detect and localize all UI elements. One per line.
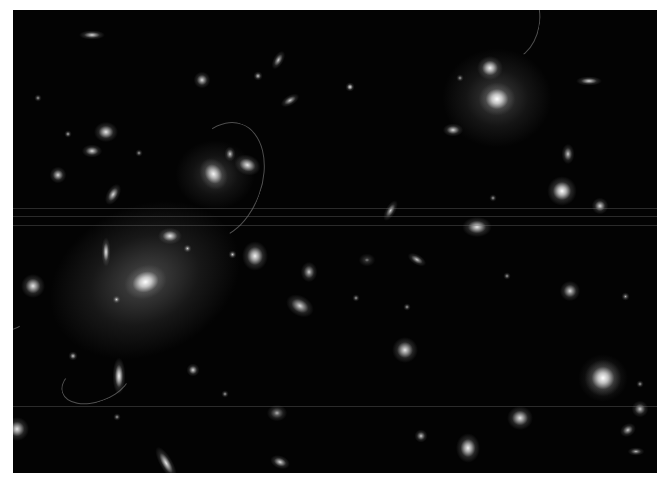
galaxy [20, 273, 45, 298]
galaxy [405, 249, 429, 269]
scan-artifact-line [13, 208, 657, 209]
galaxy [621, 292, 630, 301]
galaxy [352, 294, 359, 301]
galaxy [583, 358, 623, 398]
galaxy-cluster-image [13, 10, 657, 473]
galaxy [100, 180, 125, 209]
galaxy [112, 295, 121, 304]
galaxy [183, 244, 192, 253]
galaxy [281, 289, 320, 324]
galaxy [135, 149, 142, 156]
galaxy [503, 272, 510, 279]
galaxy [113, 413, 120, 420]
galaxy [221, 390, 228, 397]
galaxy [93, 121, 118, 143]
galaxy [455, 432, 480, 464]
galaxy [591, 197, 609, 215]
galaxy [186, 363, 200, 377]
galaxy [112, 356, 126, 396]
galaxy [461, 216, 493, 238]
galaxy [13, 416, 30, 441]
scan-artifact-line [13, 225, 657, 226]
galaxy [300, 261, 318, 283]
galaxy [477, 81, 517, 117]
galaxy [489, 194, 496, 201]
galaxy [561, 143, 575, 165]
galaxy [575, 76, 604, 87]
galaxy [228, 250, 237, 259]
galaxy [268, 48, 288, 72]
galaxy [506, 405, 535, 430]
galaxy [636, 380, 643, 387]
galaxy [64, 130, 71, 137]
galaxy [253, 71, 264, 82]
galaxy [49, 166, 67, 184]
galaxy [78, 30, 107, 41]
galaxy [150, 442, 182, 473]
galaxy [456, 74, 463, 81]
galaxy [391, 336, 420, 365]
galaxy [241, 240, 270, 272]
scan-artifact-line [13, 216, 657, 217]
galaxy [631, 400, 649, 418]
galaxy [193, 71, 211, 89]
galaxy [345, 82, 356, 93]
galaxy [559, 280, 581, 302]
galaxy [627, 447, 645, 456]
galaxy [617, 419, 640, 440]
galaxy [414, 429, 428, 443]
galaxy [442, 123, 464, 137]
galaxy [278, 90, 302, 110]
galaxy [68, 351, 79, 362]
scan-artifact-line [13, 406, 657, 407]
galaxy [546, 175, 578, 207]
galaxy [267, 452, 292, 473]
galaxy [157, 227, 182, 245]
galaxy [34, 94, 41, 101]
galaxy [476, 55, 505, 80]
galaxy [358, 253, 376, 267]
galaxy [379, 197, 401, 224]
galaxy [81, 144, 103, 158]
galaxy [403, 303, 410, 310]
